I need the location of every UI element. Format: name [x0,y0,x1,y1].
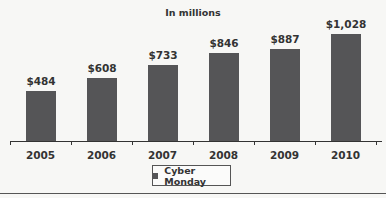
x-tick-label-2007: 2007 [132,149,193,161]
legend-swatch [153,173,158,179]
value-label-2005: $484 [11,75,71,87]
x-tick-label-2006: 2006 [71,149,132,161]
legend: Cyber Monday [152,165,231,186]
x-tick-label-2010: 2010 [315,149,376,161]
value-label-2008: $846 [194,37,254,49]
bar-2006 [87,78,117,141]
bar-2008 [209,53,239,141]
x-axis-tick [193,141,194,145]
value-label-2009: $887 [255,33,315,45]
legend-label: Cyber Monday [164,165,230,187]
bar-2005 [26,91,56,141]
bar-2009 [270,49,300,141]
x-axis-tick [376,141,377,145]
x-axis-tick [10,141,11,145]
chart-title: In millions [0,7,386,18]
x-axis-tick [315,141,316,145]
bottom-rule [0,193,386,194]
x-axis-line [10,141,382,142]
x-tick-label-2008: 2008 [193,149,254,161]
x-axis-tick [132,141,133,145]
x-tick-label-2009: 2009 [254,149,315,161]
bar-2010 [331,34,361,141]
x-tick-label-2005: 2005 [10,149,71,161]
value-label-2007: $733 [133,49,193,61]
x-axis-tick [71,141,72,145]
plot-area: $484$608$733$846$887$1,028 [10,20,376,141]
x-axis-tick [254,141,255,145]
value-label-2010: $1,028 [316,18,376,30]
bar-2007 [148,65,178,141]
value-label-2006: $608 [72,62,132,74]
